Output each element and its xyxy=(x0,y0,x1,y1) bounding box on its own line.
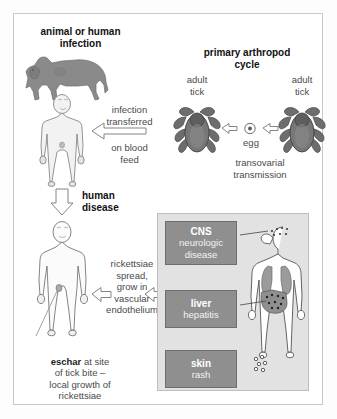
diagram-root: animal or human infection primary arthro… xyxy=(0,0,337,419)
organ-box-skin-title: skin xyxy=(191,358,211,370)
organ-box-liver-title: liver xyxy=(191,298,212,310)
organ-box-skin-subtitle: rash xyxy=(192,369,210,381)
organ-box-skin[interactable]: skin rash xyxy=(165,350,237,388)
organ-box-liver[interactable]: liver hepatitis xyxy=(165,290,237,328)
organ-box-cns-title: CNS xyxy=(190,226,211,238)
organ-box-liver-subtitle: hepatitis xyxy=(183,309,218,321)
organ-box-cns[interactable]: CNS neurologic disease xyxy=(165,221,237,265)
organ-box-cns-subtitle: neurologic disease xyxy=(179,237,223,260)
liver-shape xyxy=(261,290,287,313)
